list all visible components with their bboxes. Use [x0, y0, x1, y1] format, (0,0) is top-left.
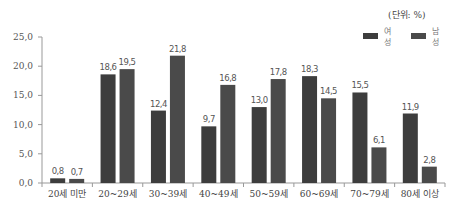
- y-tick-label: 25,0: [13, 32, 33, 42]
- y-tick-label: 5,0: [19, 149, 34, 159]
- x-category-label: 60~69세: [300, 189, 338, 199]
- bar-female: [101, 74, 116, 183]
- y-tick-label: 0,0: [19, 178, 34, 188]
- bar-value-label: 18,3: [301, 64, 318, 74]
- bar-male: [321, 98, 336, 183]
- bar-value-label: 14,5: [320, 86, 337, 96]
- bar-female: [151, 111, 166, 183]
- bar-value-label: 12,4: [150, 99, 167, 109]
- x-category-label: 20세 미만: [48, 189, 86, 199]
- bar-female: [352, 92, 367, 183]
- bar-value-label: 2,8: [423, 155, 435, 165]
- bar-male: [422, 167, 437, 183]
- bar-value-label: 19,5: [119, 57, 136, 67]
- bar-value-label: 11,9: [402, 102, 419, 112]
- bar-female: [50, 178, 65, 183]
- x-category-label: 40~49세: [199, 189, 237, 199]
- bar-male: [170, 56, 185, 183]
- x-category-label: 20~29세: [98, 189, 136, 199]
- bar-female: [252, 107, 267, 183]
- bar-value-label: 6,1: [373, 135, 385, 145]
- bar-value-label: 16,8: [219, 73, 236, 83]
- bar-value-label: 0,7: [71, 167, 83, 177]
- y-tick-label: 15,0: [13, 90, 33, 100]
- x-category-label: 50~59세: [249, 189, 287, 199]
- bar-male: [220, 85, 235, 183]
- bar-chart: 0,05,010,015,020,025,00,80,720세 미만18,619…: [0, 0, 459, 215]
- bar-male: [371, 147, 386, 183]
- bar-value-label: 15,5: [351, 80, 368, 90]
- y-tick-label: 20,0: [13, 61, 33, 71]
- bar-female: [201, 126, 216, 183]
- bar-value-label: 17,8: [270, 67, 287, 77]
- bar-male: [69, 179, 84, 183]
- bar-female: [302, 76, 317, 183]
- x-category-label: 70~79세: [350, 189, 388, 199]
- bar-value-label: 9,7: [203, 114, 215, 124]
- bar-value-label: 13,0: [251, 95, 268, 105]
- bar-male: [120, 69, 135, 183]
- bar-value-label: 0,8: [52, 166, 64, 176]
- bar-female: [403, 114, 418, 183]
- bar-value-label: 21,8: [169, 44, 186, 54]
- bar-value-label: 18,6: [100, 62, 117, 72]
- x-category-label: 80세 이상: [401, 189, 439, 199]
- y-tick-label: 10,0: [13, 120, 33, 130]
- x-category-label: 30~39세: [149, 189, 187, 199]
- bar-male: [271, 79, 286, 183]
